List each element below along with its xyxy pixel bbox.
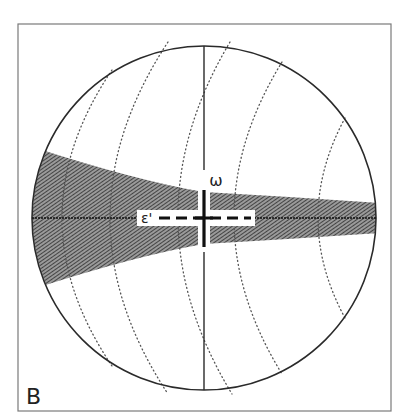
stereonet-diagram: ω ε' B bbox=[0, 0, 403, 420]
panel-label: B bbox=[26, 384, 41, 409]
stereonet-svg: ω ε' B bbox=[0, 0, 403, 420]
omega-label: ω bbox=[209, 171, 222, 190]
epsilon-prime-label: ε' bbox=[141, 210, 152, 226]
